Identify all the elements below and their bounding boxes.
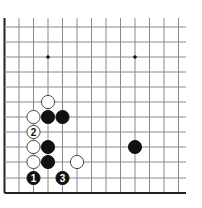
move-number-label: 3 xyxy=(60,173,66,184)
white-stone-move-2: 2 xyxy=(27,125,40,138)
black-stone xyxy=(41,110,54,123)
black-stone xyxy=(41,155,54,168)
black-stone xyxy=(56,110,69,123)
white-stone xyxy=(27,155,40,168)
black-stone-move-3: 3 xyxy=(56,171,69,184)
go-board: 213 xyxy=(0,0,202,208)
black-stone xyxy=(41,140,54,153)
move-number-label: 2 xyxy=(31,127,37,138)
stones: 213 xyxy=(27,95,142,184)
white-stone xyxy=(27,140,40,153)
black-stone xyxy=(128,140,141,153)
star-point xyxy=(133,55,137,59)
white-stone xyxy=(41,95,54,108)
white-stone xyxy=(27,110,40,123)
black-stone-move-1: 1 xyxy=(27,171,40,184)
white-stone xyxy=(70,155,83,168)
star-point xyxy=(46,55,50,59)
move-number-label: 1 xyxy=(31,173,37,184)
